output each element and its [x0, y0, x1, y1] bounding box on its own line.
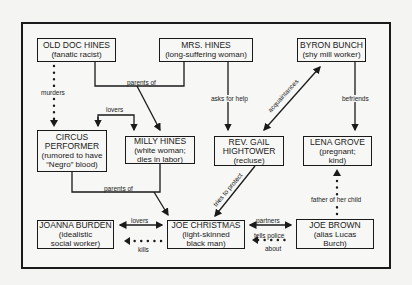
label-lovers-bottom: lovers [131, 217, 148, 224]
node-subtitle: (idealistic [59, 230, 92, 239]
edge-acquaintances [264, 67, 320, 130]
label-kills: kills [138, 246, 149, 253]
label-father-of-her-child: father of her child [311, 196, 361, 203]
node-milly-hines: MILLY HINES (white woman; dies in labor) [125, 136, 195, 164]
node-title: MRS. HINES [181, 41, 231, 50]
node-joe-christmas: JOE CHRISTMAS (light-skinned black man) [167, 220, 245, 249]
node-joanna-burden: JOANNA BURDEN (idealistic social worker) [37, 220, 114, 249]
node-subtitle: (alias Lucas [314, 230, 357, 239]
node-subtitle: (white woman; [134, 146, 186, 155]
node-subtitle: (recluse) [233, 156, 264, 165]
node-lena-grove: LENA GROVE (pregnant; kind) [303, 136, 372, 166]
node-title: OLD DOC HINES [43, 41, 110, 50]
node-subtitle-line2: kind) [329, 156, 346, 165]
node-title: LENA GROVE [310, 138, 365, 147]
node-subtitle-line2: “Negro” blood) [46, 160, 98, 169]
label-about: about [265, 245, 281, 252]
node-joe-brown: JOE BROWN (alias Lucas Burch) [296, 219, 374, 249]
node-circus-performer: CIRCUS PERFORMER (rumored to have “Negro… [37, 130, 107, 172]
node-subtitle: (rumored to have [42, 151, 103, 160]
edge-lovers-top [98, 115, 134, 130]
label-parents-of-bottom: parents of [104, 185, 133, 192]
node-subtitle-line2: dies in labor) [137, 155, 183, 164]
label-lovers-top: lovers [106, 106, 123, 113]
node-subtitle: (pregnant; [319, 147, 355, 156]
node-byron-bunch: BYRON BUNCH (shy mill worker) [297, 38, 366, 62]
node-subtitle: (fanatic racist) [51, 50, 101, 59]
node-title: JOE BROWN [309, 221, 360, 230]
node-title: JOANNA BURDEN [39, 221, 111, 230]
node-title: MILLY HINES [134, 137, 186, 146]
node-subtitle: (shy mill worker) [302, 50, 360, 59]
node-mrs-hines: MRS. HINES (long-suffering woman) [159, 38, 253, 62]
node-old-doc-hines: OLD DOC HINES (fanatic racist) [37, 38, 116, 62]
node-subtitle: (light-skinned [182, 230, 230, 239]
node-subtitle-line2: social worker) [51, 239, 100, 248]
label-murders: murders [41, 89, 65, 96]
node-rev-gail-hightower: REV. GAIL HIGHTOWER (recluse) [214, 136, 284, 166]
node-subtitle-line2: black man) [186, 239, 225, 248]
label-partners: partners [256, 217, 280, 224]
node-title-line2: PERFORMER [45, 142, 99, 151]
label-asks-for-help: asks for help [211, 95, 248, 102]
node-title-line2: HIGHTOWER [223, 147, 276, 156]
node-subtitle-line2: Burch) [323, 239, 347, 248]
label-tells-police: tells police [254, 232, 284, 239]
label-befriends: befriends [342, 95, 369, 102]
node-subtitle: (long-suffering woman) [165, 50, 247, 59]
label-parents-of-top: parents of [127, 79, 156, 86]
node-title: BYRON BUNCH [300, 41, 363, 50]
node-title: JOE CHRISTMAS [172, 221, 241, 230]
